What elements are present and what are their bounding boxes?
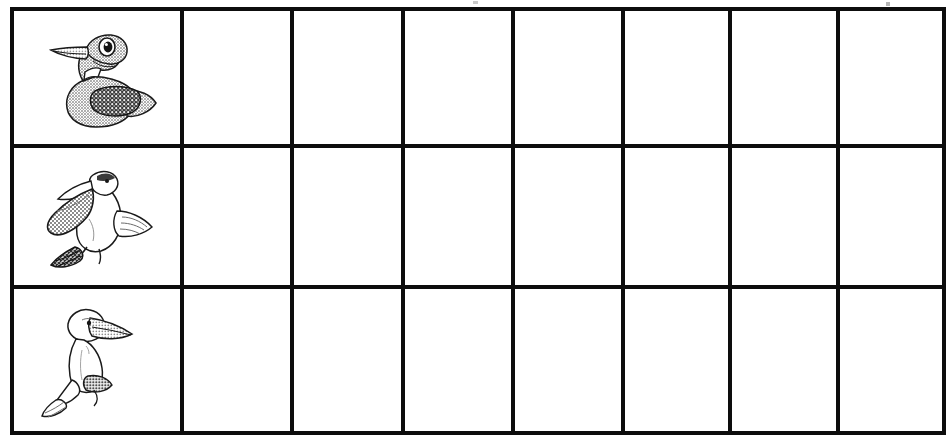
answer-blank[interactable] xyxy=(294,11,401,144)
loon-bird-illustration xyxy=(27,23,167,133)
answer-blank[interactable] xyxy=(840,148,942,284)
pelican-bird-illustration xyxy=(27,159,167,274)
answer-cell[interactable] xyxy=(182,9,292,146)
table-row xyxy=(12,287,944,433)
answer-blank[interactable] xyxy=(732,289,836,431)
answer-cell[interactable] xyxy=(730,9,838,146)
answer-cell[interactable] xyxy=(623,287,730,433)
answer-cell[interactable] xyxy=(623,9,730,146)
answer-cell[interactable] xyxy=(292,9,403,146)
answer-cell[interactable] xyxy=(730,287,838,433)
answer-cell[interactable] xyxy=(513,9,623,146)
answer-blank[interactable] xyxy=(184,289,290,431)
answer-blank[interactable] xyxy=(294,148,401,284)
answer-blank[interactable] xyxy=(625,289,728,431)
answer-cell[interactable] xyxy=(730,146,838,286)
answer-cell[interactable] xyxy=(292,146,403,286)
answer-blank[interactable] xyxy=(732,11,836,144)
answer-blank[interactable] xyxy=(184,148,290,284)
answer-blank[interactable] xyxy=(840,289,942,431)
bird-answer-grid xyxy=(10,7,946,435)
answer-blank[interactable] xyxy=(840,11,942,144)
answer-blank[interactable] xyxy=(405,11,511,144)
answer-cell[interactable] xyxy=(182,146,292,286)
answer-blank[interactable] xyxy=(732,148,836,284)
answer-blank[interactable] xyxy=(405,289,511,431)
answer-cell[interactable] xyxy=(513,146,623,286)
scan-artifact-speck xyxy=(473,1,478,4)
answer-cell[interactable] xyxy=(292,287,403,433)
table-row xyxy=(12,146,944,286)
answer-blank[interactable] xyxy=(184,11,290,144)
answer-cell[interactable] xyxy=(838,287,944,433)
picture-cell-booby xyxy=(12,287,182,433)
answer-cell[interactable] xyxy=(182,287,292,433)
answer-blank[interactable] xyxy=(625,148,728,284)
answer-blank[interactable] xyxy=(294,289,401,431)
answer-cell[interactable] xyxy=(513,287,623,433)
answer-cell[interactable] xyxy=(623,146,730,286)
answer-cell[interactable] xyxy=(403,287,513,433)
answer-cell[interactable] xyxy=(838,9,944,146)
answer-blank[interactable] xyxy=(405,148,511,284)
answer-cell[interactable] xyxy=(403,9,513,146)
answer-blank[interactable] xyxy=(515,289,621,431)
answer-cell[interactable] xyxy=(403,146,513,286)
picture-cell-loon xyxy=(12,9,182,146)
answer-cell[interactable] xyxy=(838,146,944,286)
picture-cell-pelican xyxy=(12,146,182,286)
answer-blank[interactable] xyxy=(515,11,621,144)
answer-blank[interactable] xyxy=(515,148,621,284)
answer-blank[interactable] xyxy=(625,11,728,144)
scan-artifact-speck xyxy=(886,2,890,6)
booby-bird-illustration xyxy=(32,300,162,420)
table-row xyxy=(12,9,944,146)
